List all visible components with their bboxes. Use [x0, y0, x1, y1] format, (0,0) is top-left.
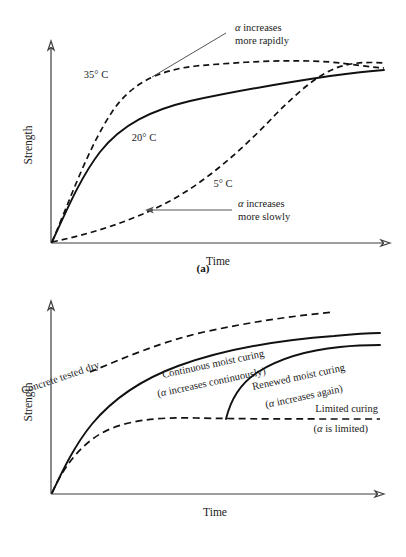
- chart-a-label-5c: 5° C: [213, 178, 232, 189]
- chart-a-curve-5c: [52, 63, 384, 242]
- figure-a-caption: (a): [0, 262, 406, 274]
- annot-slow-rest: increases: [244, 198, 285, 209]
- chart-b-label-limited-curing: Limited curing: [315, 403, 378, 414]
- chart-b-x-axis-title: Time: [203, 506, 227, 518]
- chart-a-label-35c: 35° C: [84, 69, 108, 80]
- sublabel-limited-rest: is limited): [323, 423, 369, 435]
- chart-a-svg: 35° C 20° C 5° C α increases more rapidl…: [0, 0, 406, 280]
- chart-a-annotation-rapid: α increases more rapidly: [235, 22, 290, 46]
- annot-rapid-rest: increases: [241, 22, 282, 33]
- chart-b-y-axis-title: Strength: [22, 382, 35, 421]
- chart-b-svg: Concrete tested dry Continuous moist cur…: [0, 280, 406, 557]
- chart-a-curve-35c: [52, 61, 384, 242]
- annot-rapid-line2: more rapidly: [235, 35, 290, 46]
- figure-a-container: 35° C 20° C 5° C α increases more rapidl…: [0, 0, 406, 280]
- chart-b-sublabel-limited-curing: (α is limited): [313, 423, 368, 435]
- chart-a-y-axis-title: Strength: [22, 125, 35, 164]
- annot-slow-line2: more slowly: [238, 211, 291, 222]
- svg-text:α increases: α increases: [235, 22, 282, 33]
- chart-a-curve-20c: [52, 70, 384, 242]
- chart-b-axes: [48, 301, 384, 497]
- chart-a-annotation-slow: α increases more slowly: [238, 198, 291, 222]
- chart-a-leader-rapid: [152, 33, 226, 77]
- chart-a-label-20c: 20° C: [132, 132, 156, 143]
- svg-text:α increases: α increases: [238, 198, 285, 209]
- figure-b-container: Concrete tested dry Continuous moist cur…: [0, 280, 406, 557]
